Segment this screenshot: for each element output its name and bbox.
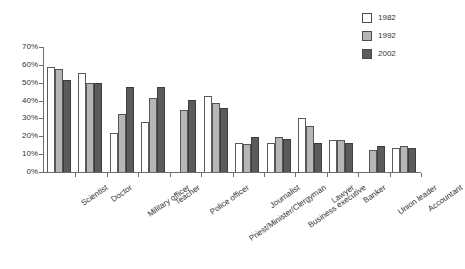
bar-2002 — [283, 139, 291, 172]
bar-1992 — [369, 150, 377, 172]
y-axis-tick-label: 10% — [14, 150, 38, 158]
bar-1992 — [306, 126, 314, 172]
bar-group — [47, 47, 71, 172]
bar-2002 — [251, 137, 259, 172]
bars-container — [44, 47, 421, 172]
bar-2002 — [126, 87, 134, 172]
bar-1992 — [86, 83, 94, 172]
bar-1982 — [110, 133, 118, 172]
bar-2002 — [408, 148, 416, 172]
bar-group — [235, 47, 259, 172]
bar-1982 — [267, 143, 275, 172]
bar-1982 — [298, 118, 306, 172]
bar-1992 — [212, 103, 220, 172]
y-axis-tick-label: 40% — [14, 97, 38, 105]
bar-2002 — [220, 108, 228, 172]
bar-group — [361, 47, 385, 172]
bar-group — [78, 47, 102, 172]
y-axis-tick-label: 30% — [14, 114, 38, 122]
bar-group — [110, 47, 134, 172]
bar-1982 — [204, 96, 212, 172]
bar-1992 — [118, 114, 126, 172]
bar-1982 — [329, 140, 337, 172]
bar-1992 — [400, 146, 408, 172]
bar-1992 — [55, 69, 63, 172]
y-axis-tick-label: 60% — [14, 61, 38, 69]
bar-1982 — [47, 67, 55, 172]
bar-1982 — [141, 122, 149, 172]
bar-2002 — [314, 143, 322, 172]
bar-1992 — [275, 137, 283, 172]
bar-group — [172, 47, 196, 172]
bar-1992 — [243, 144, 251, 172]
x-axis-label: Scientist — [79, 183, 109, 208]
x-axis-label: Doctor — [110, 183, 134, 204]
bar-1992 — [180, 110, 188, 172]
bar-1982 — [392, 148, 400, 172]
y-axis-tick-label: 70% — [14, 43, 38, 51]
bar-group — [329, 47, 353, 172]
bar-group — [392, 47, 416, 172]
y-axis-tick-label: 0% — [14, 168, 38, 176]
bar-2002 — [377, 146, 385, 172]
bar-2002 — [188, 100, 196, 172]
bar-1982 — [235, 143, 243, 172]
bar-group — [141, 47, 165, 172]
bar-1992 — [149, 98, 157, 172]
bar-2002 — [94, 83, 102, 172]
y-axis-tick-label: 50% — [14, 79, 38, 87]
bar-2002 — [345, 143, 353, 172]
x-axis-labels: ScientistDoctorMilitary officerTeacherPo… — [0, 176, 434, 268]
bar-2002 — [157, 87, 165, 172]
y-axis-tick-label: 20% — [14, 132, 38, 140]
bar-group — [267, 47, 291, 172]
bar-2002 — [63, 80, 71, 172]
x-axis-label: Police officer — [208, 183, 251, 217]
bar-group — [298, 47, 322, 172]
bar-1982 — [78, 73, 86, 172]
bar-1992 — [337, 140, 345, 172]
bar-group — [204, 47, 228, 172]
